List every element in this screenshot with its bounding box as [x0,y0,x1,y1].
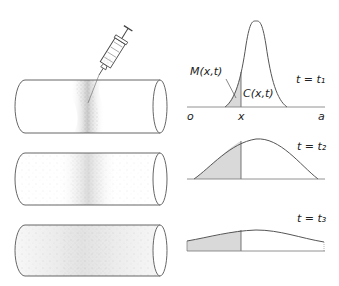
x-position-label: x [237,110,245,123]
tube-t1 [15,80,167,133]
tube-t3 [15,225,167,276]
shaded-mass-area [225,72,241,107]
syringe-icon [93,25,134,79]
end-label: a [318,110,325,123]
shaded-mass-area [187,230,241,251]
plot-t3: t = t₃ [187,212,327,251]
time-label-t1: t = t₁ [296,73,325,86]
tube-t2 [15,153,167,205]
plot-t2: t = t₂ [187,139,327,179]
concentration-label: C(x,t) [243,87,274,100]
origin-label: o [187,110,194,123]
time-label-t3: t = t₃ [297,212,327,225]
time-label-t2: t = t₂ [297,140,327,153]
mass-pointer [226,79,236,98]
mass-label: M(x,t) [190,65,222,78]
diffusion-figure: M(x,t) C(x,t) t = t₁ o x a t = t₂ t = t₃ [0,0,339,286]
plot-t1: M(x,t) C(x,t) t = t₁ o x a [187,21,325,123]
